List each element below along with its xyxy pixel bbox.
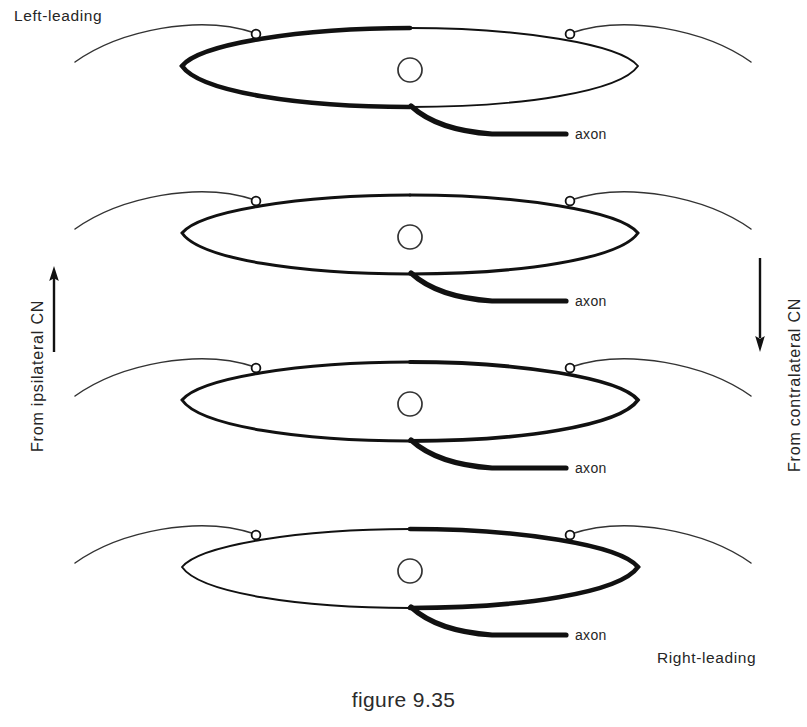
left-direction-arrow [49,266,59,352]
synaptic-bouton-right [566,30,575,39]
synaptic-bouton-left [252,30,261,39]
input-fiber-right [571,359,751,396]
axon-label-1: axon [575,127,607,141]
synaptic-bouton-left [252,197,261,206]
soma-outline-left [182,529,410,608]
input-fiber-left [75,192,255,229]
soma-outline-left [182,362,410,441]
axon [411,273,566,301]
label-from-contralateral-cn: From contralateral CN [787,298,803,472]
nucleus [398,559,422,583]
label-from-ipsilateral-cn: From ipsilateral CN [30,300,46,452]
synaptic-bouton-left [252,364,261,373]
neuron-array-diagram [0,0,807,727]
label-right-leading: Right-leading [657,650,756,666]
soma-outline-right [410,195,638,274]
input-fiber-left [75,359,255,396]
neuron-cell [75,359,751,468]
axon [411,607,566,635]
axon [411,440,566,468]
axon-label-3: axon [575,461,607,475]
synaptic-bouton-right [566,531,575,540]
input-fiber-left [75,526,255,563]
cells-group [75,25,751,635]
label-left-leading: Left-leading [14,8,102,24]
synaptic-bouton-right [566,364,575,373]
soma-outline-right [410,362,638,441]
input-fiber-right [571,192,751,229]
axon-label-4: axon [575,628,607,642]
input-fiber-right [571,526,751,563]
figure-caption: figure 9.35 [0,688,807,712]
soma-outline-right [410,529,638,608]
synaptic-bouton-left [252,531,261,540]
nucleus [398,225,422,249]
axon-label-2: axon [575,294,607,308]
input-fiber-right [571,25,751,62]
soma-outline-left [182,28,410,107]
neuron-cell [75,25,751,134]
direction-arrows-group [49,258,765,352]
nucleus [398,392,422,416]
neuron-cell [75,192,751,301]
figure-container: Left-leading Right-leading From ipsilate… [0,0,807,727]
neuron-cell [75,526,751,635]
soma-outline-left [182,195,410,274]
axon [411,106,566,134]
right-direction-arrow [755,258,765,352]
synaptic-bouton-right [566,197,575,206]
soma-outline-right [410,28,638,107]
nucleus [398,58,422,82]
